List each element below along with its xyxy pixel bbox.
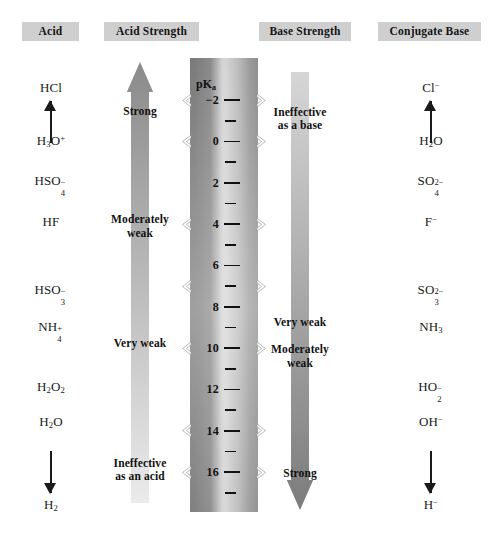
band-line: Moderately: [111, 213, 169, 225]
strength-band-label: Very weak: [274, 316, 327, 330]
species-label-top: Cl−: [422, 80, 439, 96]
species-label: SO2−4: [418, 173, 445, 189]
band-line: Ineffective: [274, 105, 327, 117]
tick-minor: [225, 492, 236, 494]
band-line: weak: [127, 226, 153, 238]
tick-label: 14: [207, 423, 219, 438]
tick-label: 16: [207, 465, 219, 480]
species-label: H2O: [39, 414, 62, 430]
species-label: HSO−3: [34, 282, 67, 298]
acid-increase-arrow: [44, 101, 58, 143]
band-line: Ineffective: [114, 456, 167, 468]
species-label: HF: [43, 214, 60, 230]
tick-label: 4: [213, 217, 219, 232]
species-label: HO−2: [418, 379, 444, 395]
pka-scale-column: [190, 58, 258, 512]
pka-notch-left: [181, 466, 191, 479]
tick-major: [224, 265, 240, 267]
pka-notch-right: [257, 280, 267, 293]
conjugate-base-decrease-arrow: [424, 451, 438, 493]
tick-label: 6: [213, 258, 219, 273]
acid-arrow-shape: [118, 62, 162, 503]
band-line: Very weak: [114, 337, 167, 349]
tick-major: [224, 99, 240, 101]
strength-band-label: Moderatelyweak: [271, 343, 329, 370]
header-acid-strength: Acid Strength: [104, 22, 199, 41]
header-base-strength: Base Strength: [259, 22, 351, 41]
species-label: H2O2: [37, 379, 65, 395]
species-label: OH−: [419, 414, 443, 430]
band-line: weak: [287, 356, 313, 368]
species-label: F−: [425, 214, 437, 230]
conjugate-base-increase-arrow: [424, 101, 438, 143]
tick-minor: [225, 120, 236, 122]
header-conjugate-base: Conjugate Base: [378, 22, 481, 41]
pka-axis-label: pKa: [196, 77, 216, 92]
base-arrow-shape: [278, 72, 322, 510]
tick-minor: [225, 285, 236, 287]
pka-notch-left: [181, 94, 191, 107]
pka-scale-gradient: [190, 58, 258, 512]
tick-major: [224, 223, 240, 225]
species-label-top: HCl: [40, 80, 62, 96]
band-line: as an acid: [115, 470, 165, 482]
tick-label: 10: [207, 341, 219, 356]
acid-strength-arrow: [118, 62, 162, 503]
pka-notch-left: [181, 135, 191, 148]
species-label: NH3: [419, 319, 442, 335]
tick-minor: [225, 203, 236, 205]
band-line: Strong: [123, 106, 157, 118]
base-strength-arrow: [278, 72, 322, 510]
tick-minor: [225, 327, 236, 329]
species-label: HSO−4: [34, 173, 67, 189]
band-line: Very weak: [274, 316, 327, 328]
acid-decrease-arrow: [44, 451, 58, 493]
tick-major: [224, 347, 240, 349]
tick-label: −2: [206, 93, 219, 108]
band-line: Strong: [283, 467, 317, 479]
band-line: as a base: [278, 119, 322, 131]
species-label-bottom: H−: [424, 497, 438, 513]
pka-notch-left: [181, 342, 191, 355]
strength-band-label: Ineffectiveas a base: [274, 105, 327, 132]
tick-minor: [225, 244, 236, 246]
species-label: SO2−3: [418, 282, 445, 298]
strength-band-label: Moderatelyweak: [111, 213, 169, 240]
pka-notch-left: [181, 280, 191, 293]
pka-notch-right: [257, 466, 267, 479]
pka-notch-right: [257, 218, 267, 231]
acid-base-strength-diagram: AcidAcid StrengthBase StrengthConjugate …: [0, 0, 488, 552]
strength-band-label: Strong: [283, 467, 317, 481]
tick-major: [224, 471, 240, 473]
tick-minor: [225, 409, 236, 411]
pka-notch-right: [257, 342, 267, 355]
strength-band-label: Ineffectiveas an acid: [114, 456, 167, 483]
tick-label: 2: [213, 175, 219, 190]
species-label: NH+4: [38, 319, 64, 335]
tick-major: [224, 389, 240, 391]
pka-notch-right: [257, 135, 267, 148]
strength-band-label: Very weak: [114, 337, 167, 351]
pka-notch-right: [257, 424, 267, 437]
tick-major: [224, 306, 240, 308]
tick-minor: [225, 161, 236, 163]
pka-notch-right: [257, 94, 267, 107]
tick-major: [224, 182, 240, 184]
header-acid: Acid: [22, 22, 79, 41]
tick-label: 12: [207, 382, 219, 397]
strength-band-label: Strong: [123, 106, 157, 120]
tick-label: 0: [213, 134, 219, 149]
pka-notch-left: [181, 218, 191, 231]
band-line: Moderately: [271, 343, 329, 355]
pka-notch-left: [181, 424, 191, 437]
tick-major: [224, 141, 240, 143]
tick-minor: [225, 451, 236, 453]
tick-label: 8: [213, 299, 219, 314]
tick-minor: [225, 368, 236, 370]
species-label-bottom: H2: [44, 497, 58, 513]
tick-major: [224, 430, 240, 432]
pka-label-text: pK: [196, 77, 212, 91]
pka-label-sub: a: [212, 83, 216, 92]
